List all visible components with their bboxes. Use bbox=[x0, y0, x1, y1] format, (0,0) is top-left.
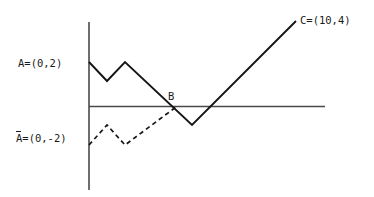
solid-path-a-to-c bbox=[89, 21, 296, 125]
math-line-diagram: A=(0,2) A=(0,-2) B C=(10,4) bbox=[0, 0, 374, 197]
label-point-b: B bbox=[168, 90, 174, 102]
diagram-canvas bbox=[0, 0, 374, 197]
label-point-c: C=(10,4) bbox=[300, 14, 351, 26]
dashed-path-abar-to-b bbox=[89, 107, 176, 145]
label-point-a-bar-letter: A bbox=[16, 132, 22, 144]
label-point-a: A=(0,2) bbox=[18, 57, 62, 69]
label-point-a-bar: A=(0,-2) bbox=[16, 132, 67, 144]
label-point-a-bar-rest: =(0,-2) bbox=[22, 132, 66, 144]
